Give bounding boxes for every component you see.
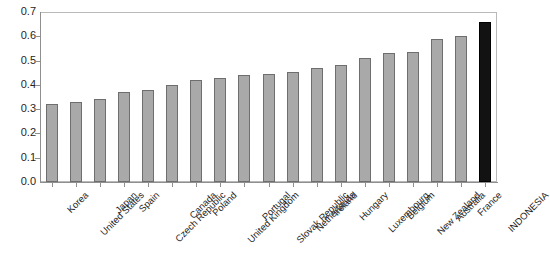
bar-netherlands [287,72,299,183]
x-tick-label: United Kingdom [246,190,301,245]
x-tick-label: INDONESIA [506,190,550,234]
y-tick-mark [35,36,40,37]
y-tick-label: 0.5 [2,55,36,66]
x-tick-mark [365,183,366,187]
y-axis-labels: 0.70.60.50.40.30.20.10.0 [0,0,36,263]
x-tick-mark [244,183,245,187]
bar-canada [166,85,178,182]
x-tick-label: Korea [65,190,90,215]
x-tick-mark [269,183,270,187]
bar-slovak-republic [263,74,275,182]
y-tick-mark [35,61,40,62]
bar-belgium [383,53,395,182]
y-tick-mark [35,133,40,134]
x-tick-mark [341,183,342,187]
bar-france [455,36,467,182]
bar-ireland [311,68,323,182]
bar-indonesia [479,22,491,182]
x-tick-mark [124,183,125,187]
y-tick-label: 0.0 [2,176,36,187]
x-tick-mark [220,183,221,187]
bar-poland [190,80,202,182]
bar-spain [118,92,130,182]
bar-korea [46,104,58,182]
bar-portugal [238,75,250,182]
x-tick-label: Hungary [357,190,389,222]
bar-new-zealand [407,52,419,182]
y-tick-mark [35,109,40,110]
y-tick-label: 0.6 [2,30,36,41]
bar-luxembourg [359,58,371,182]
y-tick-mark [35,85,40,86]
x-tick-mark [437,183,438,187]
x-tick-mark [148,183,149,187]
bar-czech-republic [142,90,154,182]
x-tick-mark [485,183,486,187]
y-tick-label: 0.1 [2,152,36,163]
x-tick-mark [52,183,53,187]
x-tick-mark [100,183,101,187]
y-tick-label: 0.2 [2,127,36,138]
x-tick-mark [389,183,390,187]
x-tick-mark [317,183,318,187]
x-tick-mark [413,183,414,187]
bar-hungary [335,65,347,182]
bar-united-states [70,102,82,182]
x-tick-mark [172,183,173,187]
x-tick-mark [293,183,294,187]
y-tick-label: 0.4 [2,79,36,90]
bar-japan [94,99,106,182]
x-tick-mark [76,183,77,187]
y-tick-label: 0.7 [2,6,36,17]
bars-container [40,12,497,182]
x-tick-label: Ireland [331,190,359,218]
bar-united-kingdom [214,78,226,182]
x-tick-mark [461,183,462,187]
y-tick-mark [35,158,40,159]
bar-australia [431,39,443,182]
y-tick-label: 0.3 [2,103,36,114]
x-tick-mark [196,183,197,187]
